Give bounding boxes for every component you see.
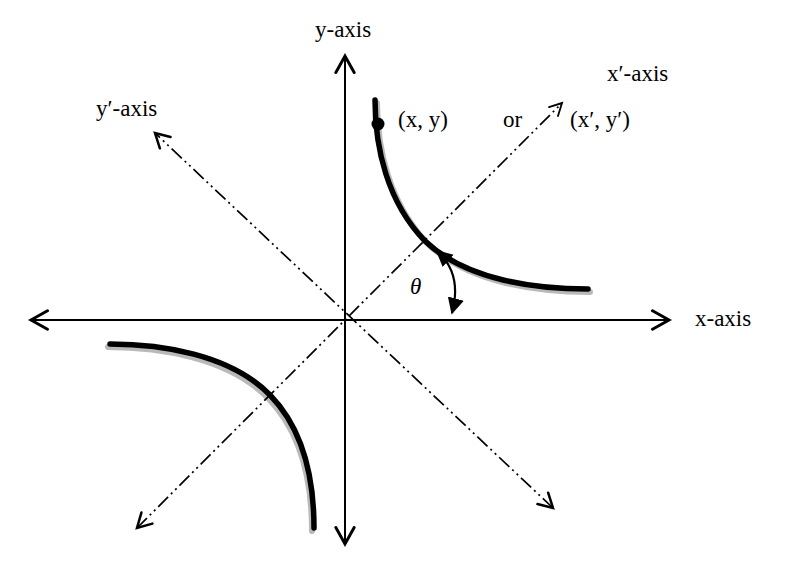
y-axis-label: y-axis bbox=[315, 18, 371, 41]
conjunction-label: or bbox=[503, 108, 522, 131]
y-prime-axis-label: y′-axis bbox=[96, 97, 157, 120]
x-prime-axis-label: x′-axis bbox=[607, 62, 668, 85]
diagram-canvas: y-axis x-axis y′-axis x′-axis (x, y) or … bbox=[0, 0, 795, 575]
point-x-prime-y-prime-label: (x′, y′) bbox=[570, 108, 630, 131]
x-axis-label: x-axis bbox=[695, 307, 751, 330]
hyperbola-branch-lower-left bbox=[110, 344, 314, 528]
point-xy-label: (x, y) bbox=[398, 108, 448, 131]
rotation-of-axes-diagram bbox=[0, 0, 795, 575]
point-marker bbox=[372, 118, 385, 131]
angle-theta-label: θ bbox=[410, 275, 421, 298]
curve-shadows bbox=[108, 103, 590, 531]
